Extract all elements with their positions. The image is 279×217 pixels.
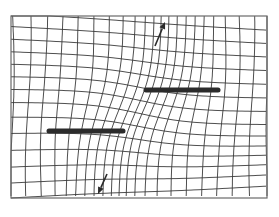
figure-frame xyxy=(11,16,267,198)
horizontal-grid-line xyxy=(11,16,266,30)
horizontal-grid-line xyxy=(11,90,266,112)
vertical-grid-line xyxy=(40,16,47,196)
horizontal-grid-line xyxy=(11,77,266,98)
horizontal-grid-line xyxy=(11,175,266,183)
deformed-grid-diagram xyxy=(0,0,279,217)
vertical-grid-line xyxy=(217,16,226,196)
figure-canvas xyxy=(0,0,279,217)
horizontal-grid-lines xyxy=(11,16,266,198)
vertical-grid-line xyxy=(186,16,204,196)
vertical-grid-line xyxy=(232,16,240,196)
vertical-grid-line xyxy=(55,16,63,196)
arrow-down-icon xyxy=(98,174,107,194)
vertical-grid-line xyxy=(111,16,145,196)
horizontal-grid-line xyxy=(11,39,266,57)
horizontal-grid-line xyxy=(11,133,266,146)
horizontal-grid-line xyxy=(11,186,266,198)
motion-arrows xyxy=(98,22,165,194)
vertical-grid-lines xyxy=(11,16,267,196)
vertical-grid-line xyxy=(171,16,195,196)
horizontal-grid-line xyxy=(11,165,266,167)
vertical-grid-line xyxy=(25,16,31,196)
vertical-grid-line xyxy=(135,16,169,196)
